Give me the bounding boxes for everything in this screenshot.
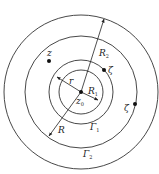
label-r: r [69,76,74,86]
label-R: R [57,125,65,135]
label-zeta-inner: ζ [108,65,114,75]
label-Gamma2: Γ2 [82,149,92,160]
point-zeta-inner [102,68,106,72]
diagram-canvas: z ζ ζ R2 r R1 z0 R Γ1 Γ2 [0,0,159,174]
label-z0: z0 [75,96,84,107]
label-zeta-outer: ζ [124,103,130,113]
label-R1: R1 [87,86,98,97]
label-Gamma1: Γ1 [89,122,99,133]
point-z [47,59,51,63]
point-zeta-outer [133,102,137,106]
label-z: z [46,48,52,58]
concentric-circles-diagram: z ζ ζ R2 r R1 z0 R Γ1 Γ2 [0,0,159,174]
point-z0 [79,90,83,94]
label-R2: R2 [98,48,109,59]
